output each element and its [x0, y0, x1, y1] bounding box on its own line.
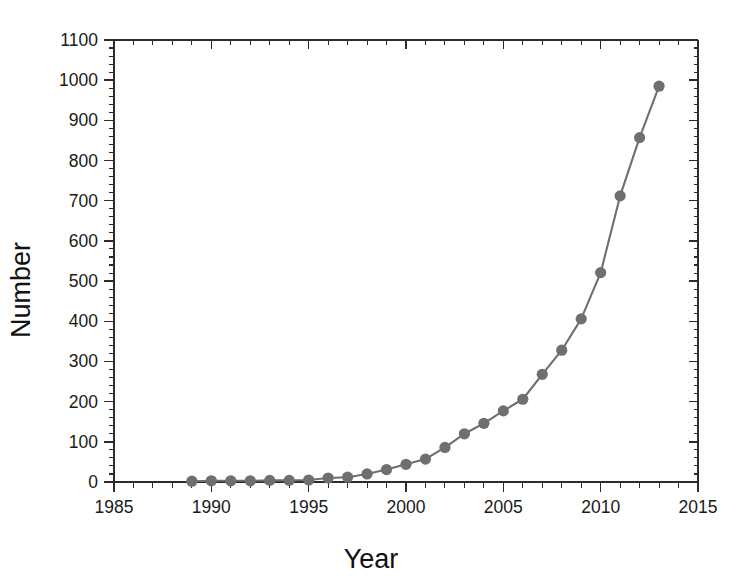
data-point-marker — [400, 459, 411, 470]
y-tick-label: 500 — [69, 271, 98, 291]
data-point-marker — [439, 442, 450, 453]
x-tick-label: 2010 — [581, 497, 620, 517]
y-axis-tick-labels: 010020030040050060070080090010001100 — [59, 30, 98, 492]
data-series-number — [186, 81, 664, 487]
data-point-marker — [615, 190, 626, 201]
x-tick-label: 2015 — [679, 497, 718, 517]
line-chart: 1985199019952000200520102015 01002003004… — [0, 0, 742, 585]
data-point-marker — [517, 394, 528, 405]
y-tick-label: 400 — [69, 311, 98, 331]
data-point-marker — [303, 474, 314, 485]
data-point-marker — [498, 405, 509, 416]
series-markers — [186, 81, 664, 487]
data-point-marker — [186, 476, 197, 487]
y-tick-label: 700 — [69, 191, 98, 211]
y-tick-label: 800 — [69, 151, 98, 171]
x-tick-label: 1985 — [95, 497, 134, 517]
data-point-marker — [323, 472, 334, 483]
x-axis-ticks — [114, 40, 698, 492]
data-point-marker — [381, 464, 392, 475]
data-point-marker — [595, 267, 606, 278]
x-tick-label: 1995 — [289, 497, 328, 517]
x-tick-label: 1990 — [192, 497, 231, 517]
chart-figure: 1985199019952000200520102015 01002003004… — [0, 0, 742, 585]
y-tick-label: 1000 — [59, 70, 98, 90]
data-point-marker — [653, 81, 664, 92]
data-point-marker — [576, 313, 587, 324]
data-point-marker — [556, 345, 567, 356]
data-point-marker — [634, 132, 645, 143]
data-point-marker — [225, 475, 236, 486]
data-point-marker — [537, 369, 548, 380]
data-point-marker — [206, 475, 217, 486]
y-tick-label: 300 — [69, 351, 98, 371]
series-line-path — [192, 86, 659, 481]
data-point-marker — [245, 475, 256, 486]
data-point-marker — [264, 475, 275, 486]
y-tick-label: 100 — [69, 432, 98, 452]
data-point-marker — [342, 472, 353, 483]
y-axis-ticks — [104, 40, 698, 482]
data-point-marker — [420, 454, 431, 465]
y-axis-title: Number — [6, 242, 36, 338]
y-tick-label: 0 — [88, 472, 98, 492]
data-point-marker — [361, 468, 372, 479]
y-tick-label: 600 — [69, 231, 98, 251]
axis-frame — [114, 40, 698, 482]
x-axis-title: Year — [344, 544, 399, 574]
y-tick-label: 1100 — [60, 30, 98, 50]
x-axis-tick-labels: 1985199019952000200520102015 — [95, 497, 718, 517]
data-point-marker — [478, 418, 489, 429]
data-point-marker — [284, 475, 295, 486]
y-tick-label: 200 — [69, 392, 98, 412]
y-tick-label: 900 — [69, 110, 98, 130]
x-tick-label: 2000 — [387, 497, 426, 517]
x-tick-label: 2005 — [484, 497, 523, 517]
data-point-marker — [459, 428, 470, 439]
